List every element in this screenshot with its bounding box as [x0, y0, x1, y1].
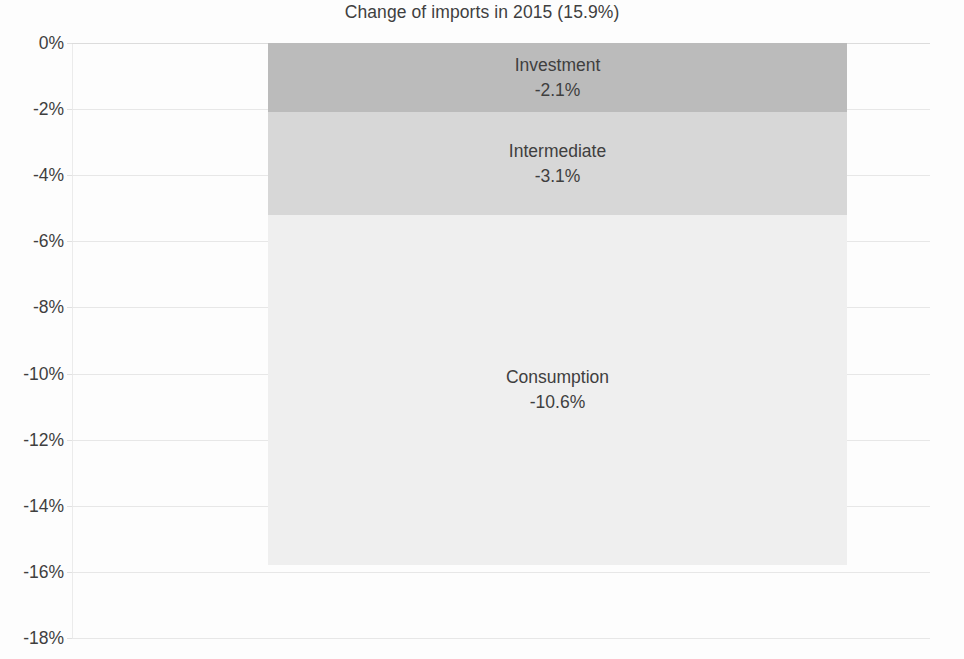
y-axis-tick-mark [67, 638, 72, 639]
plot-area: Investment-2.1%Intermediate-3.1%Consumpt… [72, 43, 930, 638]
y-axis-tick-label: -6% [2, 231, 64, 252]
y-axis-line [72, 43, 73, 638]
y-axis-labels: 0%-2%-4%-6%-8%-10%-12%-14%-16%-18% [0, 43, 64, 638]
bar-segment-label: Investment [515, 53, 601, 78]
y-axis-tick-mark [67, 572, 72, 573]
y-axis-tick-mark [67, 506, 72, 507]
y-axis-tick-label: 0% [2, 33, 64, 54]
y-axis-tick-mark [67, 241, 72, 242]
y-axis-tick-mark [67, 175, 72, 176]
y-axis-tick-label: -4% [2, 165, 64, 186]
bar-segment-value: -10.6% [530, 390, 585, 415]
y-axis-tick-label: -10% [2, 363, 64, 384]
y-axis-tick-mark [67, 374, 72, 375]
bar-segment-label: Consumption [506, 365, 609, 390]
gridline [72, 572, 930, 573]
y-axis-tick-label: -14% [2, 495, 64, 516]
chart-container: Change of imports in 2015 (15.9%) 0%-2%-… [0, 0, 964, 659]
bar-segment-value: -2.1% [535, 78, 581, 103]
y-axis-tick-label: -16% [2, 561, 64, 582]
gridline [72, 638, 930, 639]
y-axis-tick-mark [67, 43, 72, 44]
y-axis-tick-mark [67, 440, 72, 441]
bar-segment-label: Intermediate [509, 139, 606, 164]
bar-segment-investment[interactable]: Investment-2.1% [268, 43, 847, 112]
y-axis-tick-label: -18% [2, 628, 64, 649]
y-axis-tick-label: -8% [2, 297, 64, 318]
bar-segment-value: -3.1% [535, 164, 581, 189]
y-axis-tick-mark [67, 109, 72, 110]
bar-segment-intermediate[interactable]: Intermediate-3.1% [268, 112, 847, 214]
y-axis-tick-label: -2% [2, 99, 64, 120]
y-axis-tick-mark [67, 307, 72, 308]
chart-title: Change of imports in 2015 (15.9%) [0, 2, 964, 23]
bar-segment-consumption[interactable]: Consumption-10.6% [268, 215, 847, 565]
y-axis-tick-label: -12% [2, 429, 64, 450]
